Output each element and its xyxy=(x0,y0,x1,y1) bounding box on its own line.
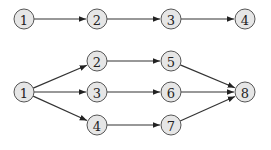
node-label: 1 xyxy=(20,86,28,101)
node-b7: 7 xyxy=(161,115,181,135)
node-b3: 3 xyxy=(87,82,107,102)
node-b4: 4 xyxy=(87,115,107,135)
node-label: 8 xyxy=(241,86,249,101)
node-a2: 2 xyxy=(87,9,107,29)
node-a1: 1 xyxy=(14,9,34,29)
node-b6: 6 xyxy=(161,82,181,102)
edge-arrow-b1-b2 xyxy=(33,65,87,88)
node-b1: 1 xyxy=(14,82,34,102)
node-a3: 3 xyxy=(161,9,181,29)
node-label: 5 xyxy=(167,55,175,70)
node-label: 2 xyxy=(93,55,101,70)
node-b8: 8 xyxy=(235,82,255,102)
edge-arrow-b5-b8 xyxy=(180,65,235,88)
node-a4: 4 xyxy=(235,9,255,29)
network-diagram: 123412345678 xyxy=(0,0,271,150)
node-label: 6 xyxy=(167,86,175,101)
edge-arrow-b7-b8 xyxy=(180,96,235,120)
node-label: 2 xyxy=(93,13,101,28)
node-label: 3 xyxy=(167,13,175,28)
node-label: 4 xyxy=(93,119,101,134)
edge-arrow-b1-b4 xyxy=(33,96,87,120)
node-label: 7 xyxy=(167,119,175,134)
node-b5: 5 xyxy=(161,51,181,71)
node-label: 3 xyxy=(93,86,101,101)
node-b2: 2 xyxy=(87,51,107,71)
node-label: 4 xyxy=(241,13,249,28)
node-label: 1 xyxy=(20,13,28,28)
